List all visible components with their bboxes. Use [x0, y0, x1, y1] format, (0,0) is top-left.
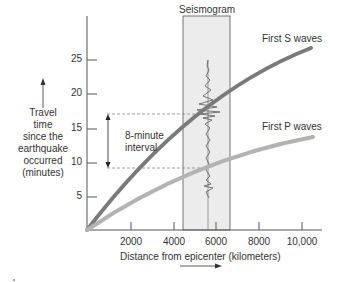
x-tick-8000: 8000 — [237, 236, 281, 247]
y-tick-10: 10 — [62, 156, 82, 167]
y-tick-15: 15 — [62, 122, 82, 133]
interval-label-2: interval — [125, 142, 157, 154]
x-tick-10000: 10,000 — [280, 236, 324, 247]
y-tick-20: 20 — [62, 87, 82, 98]
p-waves-label: First P waves — [262, 121, 322, 133]
x-axis-label: Distance from epicenter (kilometers) — [120, 251, 281, 263]
x-tick-4000: 4000 — [152, 236, 196, 247]
y-tick-5: 5 — [62, 190, 82, 201]
seismogram-label: Seismogram — [179, 4, 235, 16]
interval-label-1: 8-minute — [125, 130, 164, 142]
x-tick-6000: 6000 — [194, 236, 238, 247]
y-axis-label: Travel time since the earthquake occurre… — [10, 107, 76, 179]
s-waves-label: First S waves — [262, 33, 322, 45]
x-tick-2000: 2000 — [109, 236, 153, 247]
y-tick-25: 25 — [62, 53, 82, 64]
